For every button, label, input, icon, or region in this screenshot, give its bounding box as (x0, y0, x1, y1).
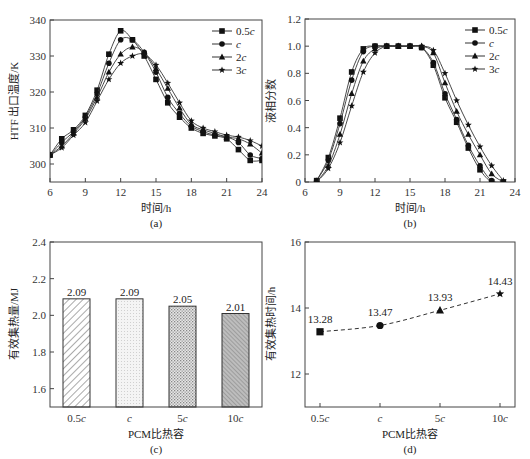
plot-frame (305, 242, 515, 407)
point-value-label: 14.43 (488, 275, 513, 287)
bar (63, 299, 90, 407)
bar (222, 314, 249, 408)
y-tick-label: 1.8 (32, 346, 46, 358)
x-axis-label: 时间/h (395, 202, 426, 214)
y-axis-label: 有效集热时间/h (264, 286, 277, 361)
x-tick-label: 18 (186, 186, 198, 198)
x-tick-label: 6 (47, 186, 53, 198)
y-tick-label: 310 (30, 122, 47, 134)
y-tick-label: 0.8 (287, 67, 301, 79)
svg-text:2c: 2c (236, 51, 247, 63)
y-tick-label: 330 (30, 50, 47, 62)
x-tick-label: 21 (475, 186, 486, 198)
trend-line (320, 294, 500, 332)
y-tick-label: 16 (290, 236, 302, 248)
bar (116, 299, 143, 407)
y-tick-label: 0.6 (287, 95, 301, 107)
point-value-label: 13.28 (308, 313, 333, 325)
x-tick-label: 12 (115, 186, 126, 198)
y-tick-label: 2.4 (32, 236, 46, 248)
chart-b-liquid-fraction: 69121518212400.20.40.60.81.01.20.5cc2c3c… (264, 13, 521, 230)
svg-text:0.5c: 0.5c (489, 24, 508, 36)
bar (169, 306, 196, 407)
x-tick-label: 9 (83, 186, 89, 198)
subplot-caption: (a) (150, 217, 163, 230)
x-tick-label: 24 (510, 186, 522, 198)
y-tick-label: 340 (30, 14, 47, 26)
x-tick-label: 24 (257, 186, 269, 198)
point-value-label: 13.93 (428, 291, 453, 303)
y-tick-label: 320 (30, 86, 47, 98)
x-axis-label: PCM比热容 (382, 427, 438, 440)
svg-text:2c: 2c (489, 50, 500, 62)
y-tick-label: 1.0 (287, 40, 301, 52)
y-tick-label: 2.0 (32, 309, 46, 321)
svg-text:5c: 5c (177, 412, 188, 424)
svg-text:3c: 3c (489, 63, 500, 75)
svg-text:0.5c: 0.5c (311, 412, 330, 424)
x-tick-label: 15 (405, 186, 417, 198)
figure-canvas: 6912151821243003103203303400.5cc2c3c时间/h… (0, 0, 530, 459)
y-tick-label: 1.2 (287, 13, 301, 25)
x-axis-label: PCM比热容 (128, 427, 184, 440)
y-tick-label: 12 (290, 368, 301, 380)
y-tick-label: 2.2 (32, 273, 46, 285)
series-line (50, 30, 262, 161)
x-tick-label: 18 (440, 186, 452, 198)
y-axis-label: HTF 出口温度/K (7, 62, 20, 141)
bar-value-label: 2.09 (120, 286, 140, 298)
subplot-caption: (c) (150, 443, 163, 456)
svg-text:c: c (236, 38, 241, 50)
y-tick-label: 0.4 (287, 122, 301, 134)
y-tick-label: 0.2 (287, 149, 301, 161)
svg-text:c: c (378, 412, 383, 424)
legend: 0.5cc2c3c (465, 24, 508, 75)
svg-text:3c: 3c (236, 64, 247, 76)
y-tick-label: 0 (296, 176, 302, 188)
subplot-caption: (d) (404, 443, 417, 456)
bar-value-label: 2.01 (226, 301, 245, 313)
series-markers (47, 44, 265, 158)
legend: 0.5cc2c3c (212, 25, 255, 76)
x-tick-label: 6 (302, 186, 308, 198)
svg-text:c: c (489, 37, 494, 49)
x-axis-label: 时间/h (141, 202, 172, 214)
svg-text:10c: 10c (228, 412, 244, 424)
bar-value-label: 2.09 (67, 286, 87, 298)
x-tick-label: 15 (151, 186, 163, 198)
svg-text:0.5c: 0.5c (236, 25, 255, 37)
y-axis-label: 有效集热量/MJ (7, 287, 20, 360)
chart-c-effective-heat: 2.090.5c2.09c2.055c2.0110c1.61.82.02.22.… (7, 236, 262, 456)
x-tick-label: 21 (221, 186, 232, 198)
series-line (50, 38, 262, 159)
svg-text:0.5c: 0.5c (67, 412, 86, 424)
point-value-label: 13.47 (368, 306, 393, 318)
x-tick-label: 9 (337, 186, 343, 198)
y-tick-label: 300 (30, 158, 47, 170)
y-tick-label: 1.6 (32, 383, 46, 395)
x-tick-label: 12 (370, 186, 381, 198)
svg-text:c: c (127, 412, 132, 424)
svg-text:10c: 10c (492, 412, 508, 424)
svg-text:5c: 5c (435, 412, 446, 424)
y-axis-label: 液相分数 (264, 79, 277, 123)
bar-value-label: 2.05 (173, 293, 193, 305)
subplot-caption: (b) (404, 217, 417, 230)
chart-d-effective-time: 0.5cc5c10c12141613.2813.4713.9314.43PCM比… (264, 236, 515, 456)
chart-a-temperature: 6912151821243003103203303400.5cc2c3c时间/h… (7, 14, 268, 230)
y-tick-label: 14 (290, 302, 302, 314)
